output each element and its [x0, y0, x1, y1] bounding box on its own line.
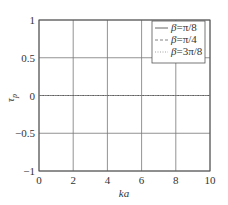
y-tick-label: −1 — [23, 165, 35, 177]
y-tick-label: 0 — [30, 90, 36, 102]
x-axis-label: ka — [119, 187, 130, 199]
y-tick-label: 1 — [30, 14, 36, 26]
x-tick-label: 2 — [70, 174, 76, 186]
legend-label: β=π/4 — [170, 33, 197, 45]
x-axis-ticks: 0246810 — [36, 174, 216, 186]
line-chart: 0246810 10.50−0.5−1 ka τp β=π/8β=π/4β=3π… — [0, 0, 228, 205]
y-tick-label: 0.5 — [21, 52, 35, 64]
legend-label: β=π/8 — [170, 21, 197, 33]
legend-label: β=3π/8 — [170, 45, 203, 57]
x-tick-label: 0 — [36, 174, 42, 186]
y-axis-label: τp — [4, 94, 19, 102]
x-tick-label: 8 — [173, 174, 179, 186]
x-tick-label: 4 — [105, 174, 111, 186]
x-tick-label: 6 — [139, 174, 145, 186]
y-tick-label: −0.5 — [15, 127, 35, 139]
legend: β=π/8β=π/4β=3π/8 — [152, 21, 205, 63]
x-tick-label: 10 — [205, 174, 217, 186]
